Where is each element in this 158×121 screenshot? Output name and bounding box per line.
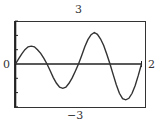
data-curve bbox=[16, 33, 142, 100]
chart-plot bbox=[0, 0, 158, 121]
